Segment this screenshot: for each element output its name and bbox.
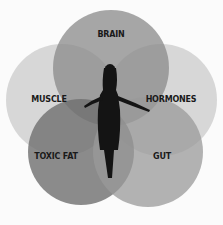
label-toxic-fat: TOXIC FAT bbox=[34, 152, 78, 161]
label-gut: GUT bbox=[153, 152, 172, 161]
venn-diagram: BRAIN MUSCLE HORMONES TOXIC FAT GUT bbox=[0, 0, 223, 225]
label-hormones: HORMONES bbox=[146, 95, 197, 104]
label-brain: BRAIN bbox=[97, 30, 124, 39]
label-muscle: MUSCLE bbox=[31, 95, 66, 104]
